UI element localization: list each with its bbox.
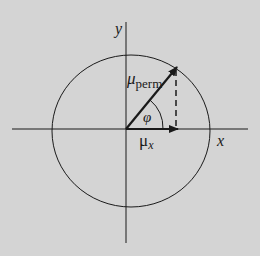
vector-diagram: y x μperm φ μx xyxy=(0,0,260,256)
x-axis-label: x xyxy=(216,132,224,149)
y-axis-label: y xyxy=(113,20,123,38)
angle-arc xyxy=(150,100,163,129)
angle-label: φ xyxy=(143,109,151,125)
mu-x-label: μx xyxy=(139,131,154,152)
mu-perm-label: μperm xyxy=(126,69,162,91)
